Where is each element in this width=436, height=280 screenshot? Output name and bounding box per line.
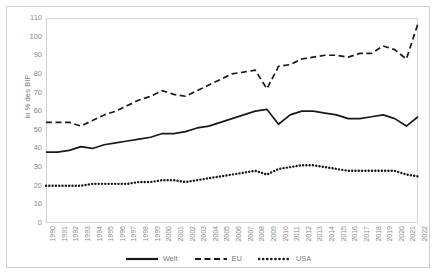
legend-swatch-solid <box>125 255 159 263</box>
y-axis-tick-labels: 0102030405060708090100110 <box>12 18 42 223</box>
x-tick-label: 1993 <box>84 226 91 242</box>
x-tick-label: 2018 <box>375 226 382 242</box>
legend-label: EU <box>232 255 242 263</box>
legend-item-eu[interactable]: EU <box>194 255 242 263</box>
x-tick-label: 2021 <box>409 226 416 242</box>
x-tick-label: 2009 <box>270 226 277 242</box>
x-tick-label: 2005 <box>223 226 230 242</box>
x-tick-label: 2019 <box>386 226 393 242</box>
x-tick-label: 2007 <box>247 226 254 242</box>
x-tick-label: 2014 <box>328 226 335 242</box>
x-tick-label: 2020 <box>398 226 405 242</box>
y-tick-label: 20 <box>12 182 42 190</box>
x-tick-label: 1996 <box>119 226 126 242</box>
x-tick-label: 1990 <box>49 226 56 242</box>
x-tick-label: 2016 <box>351 226 358 242</box>
y-tick-label: 110 <box>12 14 42 22</box>
x-tick-label: 2006 <box>235 226 242 242</box>
x-tick-label: 1999 <box>154 226 161 242</box>
chart-legend: WeltEUUSA <box>0 255 436 263</box>
y-tick-label: 10 <box>12 200 42 208</box>
x-tick-label: 2002 <box>189 226 196 242</box>
x-tick-label: 2011 <box>293 226 300 241</box>
legend-label: Welt <box>163 255 178 263</box>
x-tick-label: 2022 <box>421 226 428 242</box>
y-tick-label: 80 <box>12 70 42 78</box>
y-tick-label: 90 <box>12 51 42 59</box>
legend-swatch-dotted <box>258 255 292 263</box>
x-tick-label: 1991 <box>61 226 68 242</box>
x-tick-label: 1995 <box>107 226 114 242</box>
y-tick-label: 30 <box>12 163 42 171</box>
y-tick-label: 70 <box>12 89 42 97</box>
legend-item-usa[interactable]: USA <box>258 255 311 263</box>
x-tick-label: 2017 <box>363 226 370 242</box>
x-tick-label: 2000 <box>165 226 172 242</box>
x-tick-label: 2015 <box>340 226 347 242</box>
x-tick-label: 2004 <box>212 226 219 242</box>
series-line-usa <box>46 165 418 186</box>
x-tick-label: 1992 <box>72 226 79 242</box>
legend-item-welt[interactable]: Welt <box>125 255 178 263</box>
x-tick-label: 2010 <box>282 226 289 242</box>
x-tick-label: 2001 <box>177 226 184 242</box>
y-tick-label: 0 <box>12 219 42 227</box>
y-tick-label: 40 <box>12 144 42 152</box>
series-layer <box>46 18 418 223</box>
x-tick-label: 2013 <box>316 226 323 242</box>
line-chart: in % des BIP 0102030405060708090100110 1… <box>0 0 436 280</box>
x-tick-label: 1998 <box>142 226 149 242</box>
legend-label: USA <box>296 255 311 263</box>
x-tick-label: 2008 <box>258 226 265 242</box>
legend-swatch-dashed <box>194 255 228 263</box>
x-axis-tick-labels: 1990199119921993199419951996199719981999… <box>46 226 418 256</box>
series-line-eu <box>46 24 418 127</box>
x-tick-label: 2012 <box>305 226 312 242</box>
y-tick-label: 60 <box>12 107 42 115</box>
x-tick-label: 1997 <box>130 226 137 242</box>
y-tick-label: 100 <box>12 33 42 41</box>
x-tick-label: 2003 <box>200 226 207 242</box>
x-tick-label: 1994 <box>96 226 103 242</box>
y-tick-label: 50 <box>12 126 42 134</box>
